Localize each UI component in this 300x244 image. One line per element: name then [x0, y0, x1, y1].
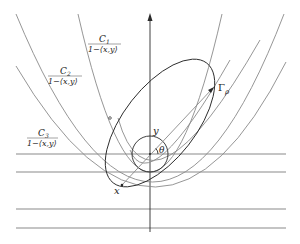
theta-arc — [156, 148, 158, 154]
label-c2: C2 1−⟨x,y⟩ — [48, 66, 82, 86]
svg-text:C1: C1 — [99, 34, 110, 45]
curve-inner-2 — [130, 60, 230, 163]
level-curves — [16, 14, 286, 187]
diagram-canvas: C1 1−⟨x,y⟩ C2 1−⟨x,y⟩ C3 1−⟨x,y⟩ Γρ y θ … — [0, 0, 300, 244]
label-c3: C3 1−⟨x,y⟩ — [27, 128, 58, 148]
point-x — [121, 184, 124, 187]
arrow-up-icon — [148, 13, 153, 21]
vertical-axis — [148, 13, 153, 232]
label-y: y — [152, 125, 159, 136]
svg-text:1−⟨x,y⟩: 1−⟨x,y⟩ — [48, 77, 78, 86]
diagonal-line — [122, 89, 212, 185]
svg-text:1−⟨x,y⟩: 1−⟨x,y⟩ — [27, 139, 57, 148]
point-ellipse-left — [109, 117, 112, 120]
curve-inner-1 — [118, 40, 260, 160]
label-c1: C1 1−⟨x,y⟩ — [88, 34, 121, 54]
svg-text:C3: C3 — [38, 128, 49, 139]
label-theta: θ — [159, 145, 165, 155]
label-gamma-rho: Γρ — [218, 82, 230, 96]
svg-text:C2: C2 — [60, 66, 71, 77]
ellipse-gamma-rho — [85, 41, 235, 205]
horizontal-lines — [16, 154, 286, 228]
label-x: x — [114, 185, 120, 196]
point-center — [149, 153, 151, 155]
svg-text:1−⟨x,y⟩: 1−⟨x,y⟩ — [88, 45, 118, 54]
